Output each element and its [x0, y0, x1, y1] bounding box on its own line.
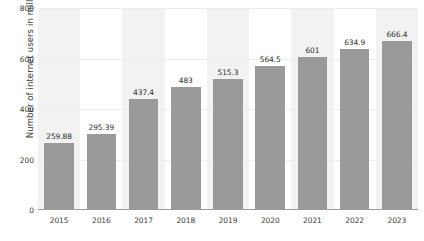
bar-value-label: 437.4 — [122, 88, 164, 97]
bar-value-label: 564.5 — [249, 55, 291, 64]
bar[interactable] — [129, 99, 159, 209]
x-axis-tick-label: 2015 — [38, 216, 80, 225]
y-axis-tick-label: 400 — [0, 105, 34, 114]
gridline — [38, 8, 418, 9]
bar-value-label: 666.4 — [376, 30, 418, 39]
bar-value-label: 515.3 — [207, 68, 249, 77]
x-axis-tick-label: 2021 — [291, 216, 333, 225]
y-axis-tick-label: 800 — [0, 4, 34, 13]
bar-value-label: 483 — [165, 76, 207, 85]
x-axis-tick-label: 2016 — [80, 216, 122, 225]
bar[interactable] — [382, 41, 412, 209]
x-axis-line — [38, 209, 418, 210]
x-axis-tick-label: 2022 — [334, 216, 376, 225]
y-axis-tick-label: 600 — [0, 54, 34, 63]
x-axis-tick-label: 2018 — [165, 216, 207, 225]
y-axis-tick-label: 0 — [0, 206, 34, 215]
x-axis-tick-label: 2019 — [207, 216, 249, 225]
y-axis-title: Number of internet users in millions — [25, 0, 35, 150]
x-axis-tick-label: 2023 — [376, 216, 418, 225]
bar[interactable] — [340, 49, 370, 209]
x-axis-tick-label: 2020 — [249, 216, 291, 225]
x-axis-tick-label: 2017 — [122, 216, 164, 225]
bar-chart: Number of internet users in millions 020… — [0, 0, 424, 241]
bar-value-label: 634.9 — [334, 38, 376, 47]
bar[interactable] — [213, 79, 243, 209]
bar-value-label: 295.39 — [80, 123, 122, 132]
bar-value-label: 259.88 — [38, 132, 80, 141]
bar[interactable] — [255, 66, 285, 209]
bar[interactable] — [44, 143, 74, 209]
bar-value-label: 601 — [291, 46, 333, 55]
bar[interactable] — [87, 134, 117, 209]
plot-area: 259.88295.39437.4483515.3564.5601634.966… — [38, 8, 418, 210]
bar[interactable] — [298, 57, 328, 209]
y-axis-tick-label: 200 — [0, 155, 34, 164]
bar[interactable] — [171, 87, 201, 209]
